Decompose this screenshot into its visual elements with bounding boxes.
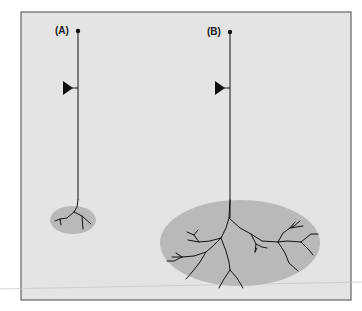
neuron-diagram: (A): [0, 0, 362, 311]
dendritic-field-b: [160, 200, 320, 286]
label-b: (B): [207, 26, 221, 37]
label-a: (A): [55, 25, 69, 36]
